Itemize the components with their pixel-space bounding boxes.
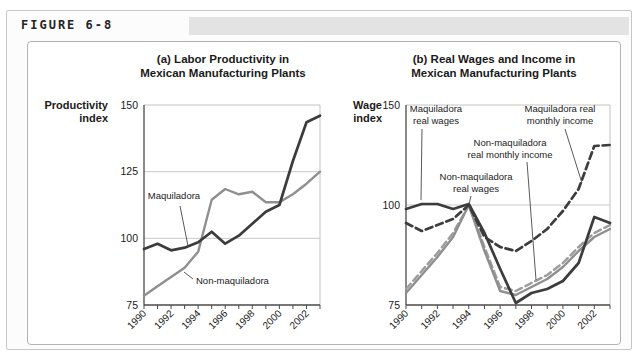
annotation-text: real wages [413, 115, 459, 126]
y-tick-label-150: 150 [120, 99, 138, 111]
annotation-text: Maquiladora [410, 103, 463, 114]
y-tick-label-75: 75 [388, 299, 400, 311]
annotation-text: Maquiladora real [525, 103, 596, 114]
chart-a-title-line2: Mexican Manufacturing Plants [78, 66, 368, 80]
series-line-maquiladora-real-monthly-income [406, 145, 610, 251]
annotation-text: Non-maquiladora [440, 171, 514, 182]
chart-a-y-axis-label-line2: index [38, 112, 108, 125]
figure-box: FIGURE 6-8 (a) Labor Productivity in Mex… [6, 10, 632, 350]
x-tick-label-1992: 1992 [152, 307, 176, 331]
x-tick-label-2002: 2002 [575, 307, 599, 331]
annotation-non-maquiladora: Non-maquiladora [184, 272, 270, 286]
chart-b-title: (b) Real Wages and Income in Mexican Man… [364, 52, 624, 81]
chart-a-y-axis-label-line1: Productivity [38, 99, 108, 112]
y-tick-label-125: 125 [120, 165, 138, 177]
figure-label: FIGURE 6-8 [21, 18, 113, 32]
y-tick-label-100: 100 [120, 232, 138, 244]
chart-panel: (a) Labor Productivity in Mexican Manufa… [27, 41, 621, 345]
annotation-maquiladora: Maquiladora [148, 190, 201, 246]
chart-a-y-axis-label: Productivity index [38, 99, 108, 125]
x-tick-label-1994: 1994 [450, 307, 474, 331]
annotation-pointer-line [527, 162, 536, 280]
x-tick-label-2000: 2000 [544, 307, 568, 331]
annotation-non-maquiladora-real-wages: Non-maquiladorareal wages [440, 171, 514, 204]
annotation-pointer-line [180, 206, 188, 246]
annotation-text: Non-maquiladora [474, 137, 548, 148]
y-tick-label-75: 75 [126, 299, 138, 311]
x-tick-label-1990: 1990 [125, 307, 149, 331]
y-tick-label-150: 150 [382, 99, 400, 111]
x-tick-label-1996: 1996 [481, 307, 505, 331]
x-tick-label-1998: 1998 [512, 307, 536, 331]
series-line-maquiladora [144, 116, 320, 251]
x-tick-label-1992: 1992 [418, 307, 442, 331]
chart-b-title-line1: (b) Real Wages and Income in [364, 52, 624, 66]
annotation-text: real monthly income [467, 149, 552, 160]
figure-header: FIGURE 6-8 [7, 11, 631, 39]
annotation-text: Non-maquiladora [196, 275, 270, 286]
header-band [189, 17, 629, 35]
x-tick-label-1994: 1994 [179, 307, 203, 331]
chart-b-plot: 751001501990199219941996199820002002Maqu… [364, 95, 620, 343]
chart-a-title-line1: (a) Labor Productivity in [78, 52, 368, 66]
annotation-pointer-line [421, 129, 422, 200]
annotation-pointer-line [184, 272, 193, 279]
annotation-non-maquiladora-real-monthly-income: Non-maquiladorareal monthly income [467, 137, 552, 280]
chart-a-plot: 751001251501990199219941996199820002002M… [108, 95, 348, 343]
x-tick-label-1990: 1990 [387, 307, 411, 331]
annotation-text: monthly income [527, 115, 594, 126]
annotation-pointer-line [565, 129, 582, 183]
annotation-pointer-line [469, 196, 471, 204]
chart-a-title: (a) Labor Productivity in Mexican Manufa… [78, 52, 368, 81]
annotation-text: Maquiladora [148, 190, 201, 201]
y-tick-label-100: 100 [382, 199, 400, 211]
chart-b-title-line2: Mexican Manufacturing Plants [364, 66, 624, 80]
x-tick-label-2000: 2000 [260, 307, 284, 331]
annotation-text: real wages [453, 183, 499, 194]
x-tick-label-2002: 2002 [287, 307, 311, 331]
x-tick-label-1996: 1996 [206, 307, 230, 331]
x-tick-label-1998: 1998 [233, 307, 257, 331]
